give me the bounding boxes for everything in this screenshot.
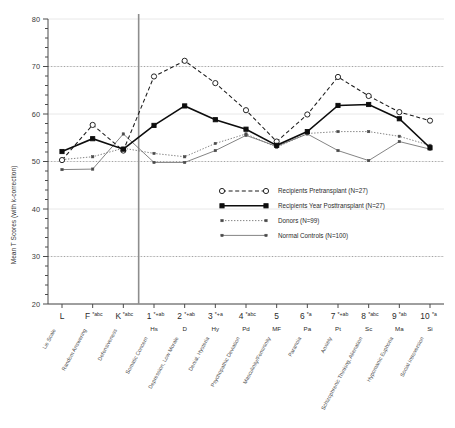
data-point-posttransplant-5 bbox=[213, 118, 217, 122]
data-point-pretransplant-6 bbox=[243, 108, 248, 113]
data-point-donors-11 bbox=[398, 135, 400, 137]
x-label-name-10: Social Introversion bbox=[399, 336, 425, 378]
data-point-pretransplant-5 bbox=[213, 81, 218, 86]
legend-marker-normal-controls-end bbox=[265, 234, 267, 236]
data-point-normal-controls-9 bbox=[337, 149, 339, 151]
x-label-name-F: Random Answering bbox=[60, 328, 87, 372]
data-point-normal-controls-2 bbox=[122, 133, 124, 135]
x-label-superscript-1: *+ab bbox=[154, 311, 165, 317]
data-point-donors-9 bbox=[337, 130, 339, 132]
data-point-donors-1 bbox=[91, 156, 93, 158]
legend-label-pretransplant: Recipients Pretransplant (N=27) bbox=[278, 187, 368, 195]
data-point-posttransplant-6 bbox=[244, 127, 248, 131]
data-point-posttransplant-8 bbox=[305, 129, 309, 133]
y-tick-label: 80 bbox=[32, 15, 40, 24]
y-tick-label: 40 bbox=[32, 205, 40, 214]
legend-label-donors: Donors (N=99) bbox=[278, 217, 319, 225]
data-point-donors-3 bbox=[153, 152, 155, 154]
x-label-name-7: Anxiety bbox=[319, 335, 333, 354]
x-label-superscript-F: *abc bbox=[92, 311, 103, 317]
data-point-posttransplant-11 bbox=[397, 117, 401, 121]
data-point-pretransplant-4 bbox=[182, 58, 187, 63]
x-label-name-9: Hypomanic Euphoria bbox=[365, 336, 394, 383]
series-line-normal-controls bbox=[62, 134, 430, 170]
data-point-normal-controls-10 bbox=[367, 159, 369, 161]
y-tick-label: 70 bbox=[32, 62, 40, 71]
x-label-code-F: F bbox=[85, 311, 90, 321]
y-axis-title-text: Mean T Scores (with k-correction) bbox=[10, 166, 18, 265]
x-label-superscript-9: *ab bbox=[399, 311, 407, 317]
data-point-posttransplant-9 bbox=[336, 103, 340, 107]
x-label-superscript-10: *a bbox=[432, 311, 437, 317]
data-point-pretransplant-9 bbox=[335, 74, 340, 79]
legend-label-normal-controls: Normal Controls (N=100) bbox=[278, 232, 348, 240]
data-point-donors-4 bbox=[183, 156, 185, 158]
x-label-superscript-K: *abc bbox=[123, 311, 134, 317]
x-label-superscript-8: *abc bbox=[368, 311, 379, 317]
data-point-pretransplant-10 bbox=[366, 93, 371, 98]
x-label-code-6: 6 bbox=[300, 311, 305, 321]
x-label-code-10: 10 bbox=[420, 311, 430, 321]
x-label-code-8: 8 bbox=[361, 311, 366, 321]
data-point-normal-controls-1 bbox=[91, 168, 93, 170]
y-axis-title: Mean T Scores (with k-correction) bbox=[10, 166, 18, 265]
x-label-name-1: Somatic Concern bbox=[124, 336, 149, 375]
x-label-code-9: 9 bbox=[392, 311, 397, 321]
x-label-name-6: Paranoia bbox=[287, 336, 302, 358]
x-label-code-1: 1 bbox=[147, 311, 152, 321]
legend-marker-normal-controls-start bbox=[221, 234, 223, 236]
x-label-code-L: L bbox=[60, 311, 65, 321]
data-point-normal-controls-3 bbox=[153, 161, 155, 163]
x-label-superscript-4: *abc bbox=[246, 311, 257, 317]
data-point-pretransplant-3 bbox=[151, 74, 156, 79]
x-label-code-4: 4 bbox=[239, 311, 244, 321]
x-label-abbr-6: Pa bbox=[304, 325, 312, 332]
data-point-donors-10 bbox=[367, 130, 369, 132]
x-label-code-3: 3 bbox=[208, 311, 213, 321]
y-ticks: 20304050607080 bbox=[32, 15, 48, 309]
data-point-normal-controls-11 bbox=[398, 140, 400, 142]
chart-canvas: 20304050607080Mean T Scores (with k-corr… bbox=[0, 0, 455, 428]
y-tick-label: 50 bbox=[32, 157, 40, 166]
series-normal-controls bbox=[61, 133, 431, 171]
x-label-abbr-2: D bbox=[182, 325, 187, 332]
data-point-posttransplant-2 bbox=[121, 147, 125, 151]
data-point-pretransplant-12 bbox=[427, 118, 432, 123]
legend-marker-posttransplant-start bbox=[220, 204, 224, 208]
data-point-posttransplant-3 bbox=[152, 123, 156, 127]
x-label-abbr-8: Sc bbox=[365, 325, 372, 332]
data-point-posttransplant-10 bbox=[367, 102, 371, 106]
legend-marker-donors-end bbox=[265, 219, 267, 221]
data-point-posttransplant-1 bbox=[91, 137, 95, 141]
data-point-pretransplant-8 bbox=[305, 112, 310, 117]
data-point-pretransplant-1 bbox=[90, 122, 95, 127]
data-point-pretransplant-0 bbox=[59, 157, 64, 162]
data-point-pretransplant-11 bbox=[397, 110, 402, 115]
data-point-posttransplant-0 bbox=[60, 149, 64, 153]
chart-legend: Recipients Pretransplant (N=27)Recipient… bbox=[219, 187, 385, 239]
x-label-name-4: Psychopathic Deviation bbox=[209, 336, 241, 388]
x-label-name-2: Depression, Low Morale bbox=[147, 336, 180, 390]
legend-marker-pretransplant-start bbox=[219, 188, 224, 193]
x-label-code-K: K bbox=[116, 311, 122, 321]
x-label-superscript-3: *+a bbox=[215, 311, 223, 317]
x-label-abbr-3: Hy bbox=[212, 325, 220, 332]
x-label-code-5: 5 bbox=[274, 311, 279, 321]
legend-marker-pretransplant-end bbox=[263, 188, 268, 193]
chart-figure: 20304050607080Mean T Scores (with k-corr… bbox=[0, 0, 455, 428]
x-label-abbr-10: Si bbox=[427, 325, 433, 332]
x-label-name-5: Masculinity/Femininity bbox=[241, 335, 271, 385]
legend-marker-donors-start bbox=[221, 219, 223, 221]
x-ticks bbox=[62, 304, 430, 308]
x-label-abbr-9: Ma bbox=[395, 325, 404, 332]
data-point-normal-controls-6 bbox=[245, 134, 247, 136]
x-label-code-7: 7 bbox=[331, 311, 336, 321]
x-axis-labels: LLie ScaleF*abcRandom AnsweringK*abcDefe… bbox=[41, 311, 437, 411]
x-label-superscript-6: *a bbox=[307, 311, 312, 317]
x-label-superscript-7: *+ab bbox=[338, 311, 349, 317]
x-label-abbr-5: MF bbox=[272, 325, 281, 332]
legend-marker-posttransplant-end bbox=[264, 204, 268, 208]
x-label-code-2: 2 bbox=[177, 311, 182, 321]
data-point-posttransplant-12 bbox=[428, 146, 432, 150]
x-label-abbr-7: Pt bbox=[335, 325, 341, 332]
